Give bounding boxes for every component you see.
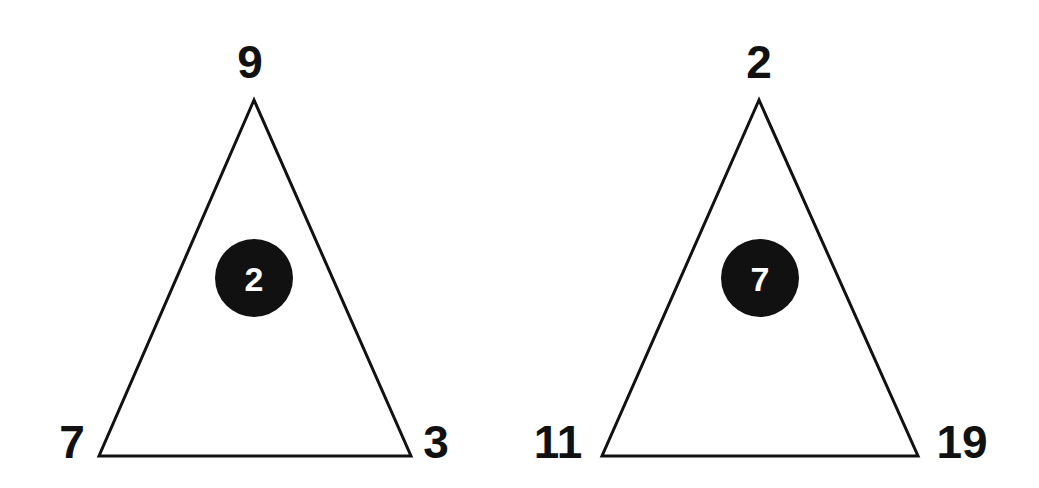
triangle-1-top-number: 9: [237, 36, 263, 88]
triangle-1-center-number: 2: [245, 260, 264, 298]
triangle-2-top-number: 2: [746, 36, 772, 88]
triangle-1-bottom-right-number: 3: [423, 416, 449, 468]
diagram-canvas: 9 7 3 2 2 11 19 7: [0, 0, 1039, 488]
triangle-2-bottom-right-number: 19: [936, 416, 987, 468]
triangle-2: 2 11 19 7: [534, 36, 988, 468]
triangle-2-bottom-left-number: 11: [534, 416, 583, 468]
triangle-1: 9 7 3 2: [59, 36, 449, 468]
triangle-1-bottom-left-number: 7: [59, 416, 85, 468]
triangle-2-center-number: 7: [751, 260, 770, 298]
